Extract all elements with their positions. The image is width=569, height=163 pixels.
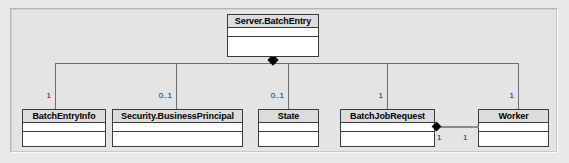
connector-drop-batchentryinfo: [55, 63, 56, 109]
class-attributes-compartment: [23, 123, 105, 132]
class-attributes-compartment: [113, 123, 242, 132]
multiplicity-batchentryinfo: 1: [33, 91, 51, 100]
multiplicity-worker: 1: [496, 91, 514, 100]
class-box-worker[interactable]: Worker: [478, 109, 549, 147]
connector-drop-worker: [518, 63, 519, 109]
class-attributes-compartment: [259, 123, 318, 132]
class-box-security-businessprincipal[interactable]: Security.BusinessPrincipal: [112, 109, 243, 147]
class-name-batchjobrequest: BatchJobRequest: [341, 110, 434, 123]
class-box-batchjobrequest[interactable]: BatchJobRequest: [340, 109, 435, 147]
multiplicity-state: 0..1: [258, 91, 284, 100]
class-name-state: State: [259, 110, 318, 123]
class-attributes-compartment: [228, 28, 318, 37]
class-box-state[interactable]: State: [258, 109, 319, 147]
class-name-worker: Worker: [479, 110, 548, 123]
uml-class-diagram: 1 0..1 0..1 1 1 Server.BatchEntry BatchE…: [0, 0, 569, 163]
connector-drop-state: [288, 63, 289, 109]
class-name-batchentryinfo: BatchEntryInfo: [23, 110, 105, 123]
connector-drop-batchjobrequest: [387, 63, 388, 109]
class-attributes-compartment: [341, 123, 434, 132]
multiplicity-securitybusinessprincipal: 0..1: [146, 91, 172, 100]
class-box-batchentryinfo[interactable]: BatchEntryInfo: [22, 109, 106, 147]
class-box-server-batchentry[interactable]: Server.BatchEntry: [227, 14, 319, 57]
multiplicity-association-source: 1: [437, 133, 449, 142]
connector-drop-securitybusinessprincipal: [176, 63, 177, 109]
class-name-server-batchentry: Server.BatchEntry: [228, 15, 318, 28]
multiplicity-batchjobrequest: 1: [365, 91, 383, 100]
class-name-security-businessprincipal: Security.BusinessPrincipal: [113, 110, 242, 123]
multiplicity-association-target: 1: [463, 133, 475, 142]
connector-horizontal-bus: [55, 63, 519, 64]
class-attributes-compartment: [479, 123, 548, 132]
